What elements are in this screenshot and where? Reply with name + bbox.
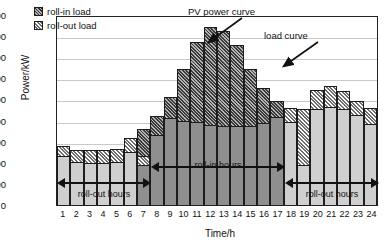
bar-column: [150, 17, 163, 205]
chart-figure: Power/kW 4500400035003000250020001500100…: [0, 0, 388, 248]
bar-segment-roll-in-load: [164, 97, 177, 118]
x-tick-label: 7: [137, 208, 150, 222]
x-tick-label: 1: [56, 208, 69, 222]
legend-swatch-roll-out-icon: [34, 21, 43, 30]
span-label: roll-out hours: [285, 189, 379, 199]
x-tick-label: 11: [190, 208, 203, 222]
bar-segment-roll-in-load: [190, 42, 203, 122]
x-tick-label: 10: [177, 208, 190, 222]
bar-segment-roll-out-load: [57, 146, 70, 157]
x-axis-title: Time/h: [55, 228, 385, 239]
arrow-head-right-icon: [371, 178, 379, 188]
y-tick-label: 1500: [0, 138, 6, 147]
x-tick-label: 6: [123, 208, 136, 222]
bar-segment-roll-out-load: [84, 150, 97, 163]
x-tick-label: 4: [96, 208, 109, 222]
span-rollout-hours-evening: roll-out hours: [285, 177, 379, 189]
legend-label: roll-out load: [47, 20, 97, 31]
x-tick-label: 14: [230, 208, 243, 222]
bar-segment-roll-in-load: [137, 129, 150, 156]
bar-segment-roll-in-load: [177, 69, 190, 121]
x-tick-label: 18: [284, 208, 297, 222]
span-label: roll-out hours: [57, 189, 151, 199]
x-tick-label: 5: [110, 208, 123, 222]
x-tick-label: 8: [150, 208, 163, 222]
span-line: [291, 182, 373, 184]
x-tick-label: 3: [83, 208, 96, 222]
legend-swatch-roll-in-icon: [34, 7, 43, 16]
bar-segment-roll-out-load: [284, 108, 297, 122]
bar-column: [177, 17, 190, 205]
x-tick-label: 17: [271, 208, 284, 222]
x-tick-label: 15: [244, 208, 257, 222]
y-tick-label: 4000: [0, 32, 6, 41]
x-tick-label: 22: [338, 208, 351, 222]
bar-segment-roll-in-load: [150, 116, 163, 135]
bar-segment-roll-in-load: [257, 88, 270, 123]
x-tick-label: 12: [204, 208, 217, 222]
span-rollout-hours-morning: roll-out hours: [57, 177, 151, 189]
annotation-load-curve: load curve: [264, 30, 308, 41]
x-tick-label: 24: [365, 208, 378, 222]
bar-segment-roll-out-load: [70, 150, 83, 162]
bar-column: [244, 17, 257, 205]
bar-segment-roll-in-load: [217, 31, 230, 126]
x-tick-label: 21: [324, 208, 337, 222]
chart-legend: roll-in load roll-out load: [34, 6, 97, 34]
legend-item-roll-out-load: roll-out load: [34, 20, 97, 31]
x-tick-label: 9: [163, 208, 176, 222]
bar-segment-roll-out-load: [124, 138, 137, 152]
bar-segment-roll-out-load: [364, 108, 377, 124]
x-tick-label: 19: [298, 208, 311, 222]
bar-segment-roll-out-load: [350, 101, 363, 115]
bar-column: [164, 17, 177, 205]
bar-column: [204, 17, 217, 205]
x-tick-label: 13: [217, 208, 230, 222]
span-line: [63, 182, 145, 184]
bar-column: [190, 17, 203, 205]
bar-segment-roll-out-load: [97, 150, 110, 163]
bar-segment-roll-in-load: [230, 45, 243, 126]
legend-label: roll-in load: [47, 6, 91, 17]
span-label: roll-in hours: [151, 160, 285, 170]
bar-segment-roll-out-load: [310, 90, 323, 109]
bar-segment-roll-in-load: [270, 101, 283, 117]
bar-column: [257, 17, 270, 205]
y-tick-label: 0: [0, 201, 6, 210]
x-tick-label: 2: [69, 208, 82, 222]
plot-area: roll-out hours roll-in hours roll-out ho…: [56, 16, 378, 206]
bar-segment-roll-out-load: [324, 86, 337, 108]
bar-segment-roll-out-load: [297, 109, 310, 165]
legend-item-roll-in-load: roll-in load: [34, 6, 97, 17]
arrow-head-right-icon: [143, 178, 151, 188]
x-tick-label: 20: [311, 208, 324, 222]
y-tick-label: 3000: [0, 74, 6, 83]
bar-segment-roll-out-load: [110, 149, 123, 162]
annotation-pv-power-curve: PV power curve: [188, 6, 255, 17]
bar-segment-roll-out-load: [137, 156, 150, 164]
x-tick-label: 23: [351, 208, 364, 222]
y-tick-label: 2500: [0, 95, 6, 104]
y-tick-label: 2000: [0, 117, 6, 126]
y-tick-label: 4500: [0, 11, 6, 20]
span-rollin-hours: roll-in hours: [151, 161, 285, 173]
y-tick-label: 500: [0, 180, 6, 189]
x-axis-tick-labels: 123456789101112131415161718192021222324: [56, 208, 378, 222]
bar-segment-roll-out-load: [337, 91, 350, 109]
bar-segment-roll-in-load: [244, 69, 257, 126]
y-tick-label: 1000: [0, 159, 6, 168]
bar-column: [217, 17, 230, 205]
x-tick-label: 16: [257, 208, 270, 222]
y-tick-label: 3500: [0, 53, 6, 62]
bar-column: [230, 17, 243, 205]
bar-column: [270, 17, 283, 205]
bar-segment-roll-in-load: [204, 27, 217, 125]
